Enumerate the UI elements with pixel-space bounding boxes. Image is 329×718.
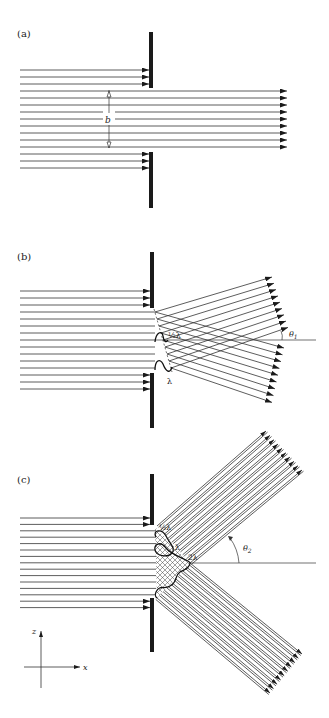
panel-c-angle-arrow — [228, 536, 233, 541]
diffracted-ray-up — [179, 457, 290, 551]
panel-c-angle-label: θ2 — [243, 544, 252, 554]
panel-c-lambda: λ — [175, 543, 180, 552]
panel-b-angle-arc — [281, 331, 282, 340]
panel-c: (c) ½λ λ 2λ θ2 — [17, 431, 316, 695]
diffracted-ray-down-pair — [170, 584, 283, 677]
panel-c-half-lambda: ½λ — [159, 523, 171, 532]
diffracted-ray-down-pair — [163, 592, 276, 686]
panel-b-label: (b) — [17, 251, 31, 262]
coordinate-axes: z x — [24, 627, 88, 688]
slit-width-label: b — [105, 115, 111, 125]
panel-c-two-lambda: 2λ — [188, 553, 198, 562]
panel-b: (b) ½λ λ θ1 — [17, 251, 316, 428]
diffracted-ray-down-pair — [167, 588, 280, 682]
diffracted-ray-up — [155, 277, 272, 312]
diffracted-ray-up — [183, 461, 294, 554]
diffracted-ray-down — [183, 571, 295, 663]
panel-c-angle-arc — [230, 538, 239, 563]
panel-c-barrier-top — [150, 474, 154, 525]
diffracted-ray-up — [161, 296, 278, 333]
panel-b-barrier-bottom — [150, 373, 154, 428]
z-axis-label: z — [31, 627, 37, 636]
panel-a: (a) b — [17, 28, 287, 208]
panel-a-barrier-top — [149, 32, 153, 88]
panel-a-rays — [20, 70, 287, 168]
diffracted-ray-up — [165, 309, 282, 348]
diffracted-ray-down — [169, 361, 274, 396]
diffracted-ray-down — [171, 368, 272, 402]
diffracted-ray-up — [157, 283, 274, 319]
diffraction-figure: (a) b (b) ½λ λ θ1 (c) — [0, 0, 329, 718]
diffracted-ray-up — [159, 290, 276, 326]
slit-width-indicator: b — [103, 90, 115, 148]
diffracted-ray-up — [167, 315, 284, 354]
panel-b-angle-label: θ1 — [289, 330, 298, 340]
diffracted-ray-down — [155, 312, 284, 348]
diffracted-ray-down-pair — [159, 596, 272, 691]
panel-c-label: (c) — [17, 474, 31, 485]
panel-b-barrier-top — [150, 252, 154, 308]
panel-b-full-wave — [155, 361, 172, 372]
diffracted-ray-down — [175, 579, 287, 672]
panel-a-barrier-bottom — [149, 152, 153, 208]
x-axis-label: x — [83, 663, 88, 672]
diffracted-ray-down — [167, 354, 275, 389]
diffracted-ray-up-pair — [170, 445, 280, 539]
panel-b-lambda: λ — [167, 377, 172, 386]
diffracted-ray-down — [163, 340, 278, 375]
diffracted-ray-down — [186, 567, 298, 658]
panel-b-half-lambda: ½λ — [168, 331, 181, 340]
diffracted-ray-up-pair — [162, 437, 271, 532]
panel-a-label: (a) — [17, 28, 31, 39]
panel-c-barrier-bottom — [150, 598, 154, 652]
diffracted-ray-down — [179, 575, 291, 667]
diffracted-ray-up-pair — [166, 441, 276, 536]
diffracted-ray-up-pair — [159, 432, 268, 527]
